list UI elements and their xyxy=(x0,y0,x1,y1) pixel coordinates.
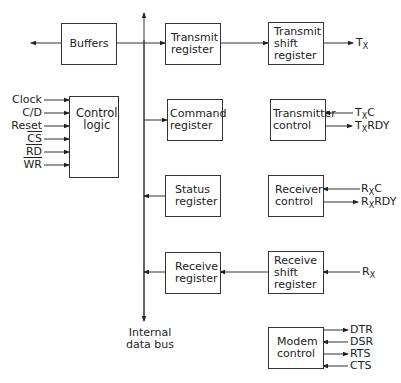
internal-data-bus-label: Internal data bus xyxy=(126,327,174,351)
input-clock-label: Clock xyxy=(12,94,42,106)
modem-control-block: Modemcontrol xyxy=(268,327,324,369)
buffers-label: Buffers xyxy=(69,38,108,50)
rx-main: R xyxy=(362,265,370,278)
receive-shift-label-3: register xyxy=(274,279,317,291)
input-wr-label: WR xyxy=(23,159,42,171)
rxrdy-main: R xyxy=(361,195,369,208)
receive-register-label-2: register xyxy=(175,273,218,285)
modem-cts-label: CTS xyxy=(350,360,371,372)
txc-main: T xyxy=(355,106,362,119)
txc-suffix: C xyxy=(367,106,375,119)
status-register-label-2: register xyxy=(175,196,217,208)
tx-sub: X xyxy=(363,42,368,51)
transmit-shift-label-2: shift xyxy=(274,38,321,50)
command-register-block: Commandregister xyxy=(167,99,223,141)
receive-shift-register-block: Receiveshiftregister xyxy=(268,251,324,294)
txrdy-suffix: RDY xyxy=(367,119,389,132)
transmit-register-block: Transmitregister xyxy=(165,23,221,65)
signal-rx-label: RX xyxy=(362,266,375,278)
signal-rxrdy-label: RXRDY xyxy=(361,196,396,208)
transmit-shift-label-3: register xyxy=(274,50,321,62)
tx-main: T xyxy=(356,36,363,49)
receiver-control-label-2: control xyxy=(275,196,323,208)
transmit-shift-label-1: Transmit xyxy=(274,26,321,38)
rxrdy-suffix: RDY xyxy=(374,195,396,208)
rx-sub: X xyxy=(370,271,375,280)
rxc-main: R xyxy=(361,182,369,195)
signal-rxc-label: RXC xyxy=(361,183,382,195)
signal-txrdy-label: TXRDY xyxy=(355,120,389,132)
transmitter-control-block: Transmittercontrol xyxy=(270,99,326,141)
modem-control-label-2: control xyxy=(277,348,318,360)
buffers-block: Buffers xyxy=(61,23,117,65)
receive-register-block: Receiveregister xyxy=(165,252,221,294)
input-reset-label: Reset xyxy=(11,120,42,132)
signal-txc-label: TXC xyxy=(355,107,375,119)
transmit-shift-register-block: Transmitshiftregister xyxy=(268,22,324,65)
control-logic-label-2: logic xyxy=(76,119,118,131)
signal-tx-label: TX xyxy=(356,37,368,49)
rxc-suffix: C xyxy=(374,182,382,195)
input-rd-label: RD xyxy=(26,146,42,158)
bus-label-line2: data bus xyxy=(126,339,174,351)
control-logic-block: Controllogic xyxy=(69,96,119,178)
transmitter-control-label-2: control xyxy=(273,120,336,132)
input-cd-label: C/D xyxy=(22,107,42,119)
input-cs-label: CS xyxy=(27,133,42,145)
status-register-block: Statusregister xyxy=(165,175,221,217)
receive-shift-label-2: shift xyxy=(274,267,317,279)
txrdy-main: T xyxy=(355,119,362,132)
receiver-control-block: Receivercontrol xyxy=(268,175,324,217)
transmit-register-label-2: register xyxy=(171,44,218,56)
receive-shift-label-1: Receive xyxy=(274,255,317,267)
command-register-label-2: register xyxy=(170,120,227,132)
